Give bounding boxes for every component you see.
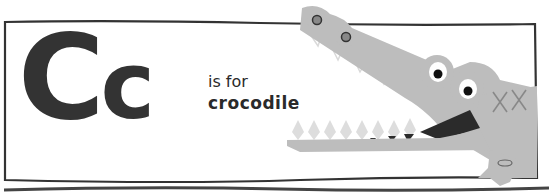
nostril-icon bbox=[313, 16, 322, 25]
nostril-icon bbox=[342, 33, 351, 42]
crocodile-illustration bbox=[0, 0, 549, 192]
lower-teeth-icon bbox=[292, 118, 416, 140]
